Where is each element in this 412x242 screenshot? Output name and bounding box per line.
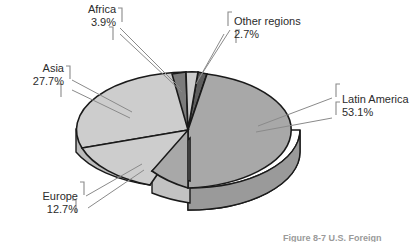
figure-caption: Figure 8-7 U.S. Foreign [283, 233, 382, 242]
slice-label-asia-value: 27.7% [0, 75, 64, 88]
bracket-europe [80, 182, 84, 195]
bracket-latin-america [336, 84, 340, 97]
pie-chart-figure: Africa 3.9% Other regions 2.7% Asia 27.7… [0, 0, 412, 242]
slice-label-latin-america-value: 53.1% [342, 106, 409, 119]
slice-label-africa: Africa 3.9% [0, 3, 116, 29]
slice-label-latin-america-name: Latin America [342, 93, 409, 106]
slice-label-latin-america: Latin America 53.1% [342, 93, 409, 119]
slice-label-asia: Asia 27.7% [0, 62, 64, 88]
slice-label-europe-name: Europe [0, 190, 78, 203]
slice-label-africa-name: Africa [0, 3, 116, 16]
bracket-latin-america-lower [336, 102, 340, 115]
slice-label-other-regions-value: 2.7% [234, 28, 301, 41]
bracket-other-regions [228, 12, 232, 26]
slice-label-europe-value: 12.7% [0, 203, 78, 216]
bracket-africa [118, 8, 122, 22]
slice-label-other-regions-name: Other regions [234, 15, 301, 28]
slice-label-africa-value: 3.9% [0, 16, 116, 29]
slice-label-other-regions: Other regions 2.7% [234, 15, 301, 41]
pie-top-faces [76, 72, 291, 188]
slice-label-europe: Europe 12.7% [0, 190, 78, 216]
slice-label-asia-name: Asia [0, 62, 64, 75]
bracket-asia [66, 66, 70, 79]
